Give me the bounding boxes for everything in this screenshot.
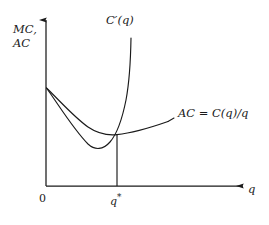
y-axis-label-line1: MC, <box>13 22 37 36</box>
q-star-base: q <box>110 195 117 208</box>
ac-label-leader-line <box>168 118 174 122</box>
y-axis-label: MC, AC <box>13 22 37 51</box>
average-cost-curve <box>47 88 169 135</box>
marginal-cost-curve-label: C′(q) <box>106 13 134 27</box>
average-cost-curve-label: AC = C(q)/q <box>178 106 248 120</box>
cost-curves-figure: MC, AC C′(q) AC = C(q)/q q 0 q* <box>0 0 269 225</box>
origin-label: 0 <box>39 192 46 206</box>
q-star-asterisk: * <box>117 192 121 202</box>
marginal-cost-curve <box>47 38 132 148</box>
x-axis-label: q <box>248 182 255 196</box>
q-star-label: q* <box>110 192 121 208</box>
y-axis-label-line2: AC <box>13 36 37 50</box>
